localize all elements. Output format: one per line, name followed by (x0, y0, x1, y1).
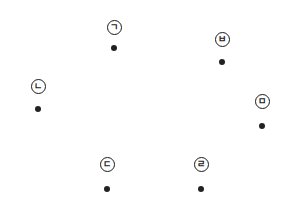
dot-marker (111, 45, 117, 51)
dot-marker (35, 106, 41, 112)
label-giyeok: ㄱ (110, 23, 118, 32)
circled-label: ㄹ (194, 157, 209, 172)
circled-label: ㄷ (100, 157, 115, 172)
label-nieun: ㄴ (34, 82, 42, 91)
label-rieul: ㄹ (197, 160, 205, 169)
circled-label: ㅁ (255, 94, 270, 109)
dot-marker (219, 59, 225, 65)
label-mieum: ㅁ (258, 97, 266, 106)
dot-marker (259, 123, 265, 129)
circled-label: ㅂ (215, 32, 230, 47)
circled-label: ㄱ (107, 20, 122, 35)
circled-label: ㄴ (31, 79, 46, 94)
dot-marker (104, 186, 110, 192)
label-digeut: ㄷ (103, 160, 111, 169)
label-bieup: ㅂ (218, 35, 226, 44)
dot-marker (198, 186, 204, 192)
diagram-canvas: ㄱ ㄴ ㄷ ㄹ ㅁ ㅂ (0, 0, 292, 206)
